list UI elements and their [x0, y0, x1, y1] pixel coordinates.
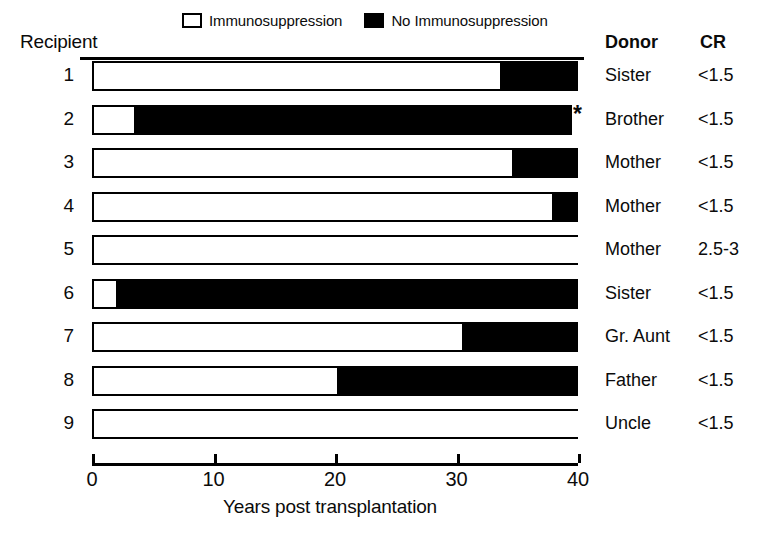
- x-axis-tick-label: 0: [86, 468, 97, 491]
- donor-label: Father: [605, 370, 657, 391]
- chart-row: 4Mother<1.5: [0, 192, 769, 222]
- stacked-bar: [92, 105, 572, 135]
- bar-segment-no-immunosuppression: [500, 63, 578, 89]
- stacked-bar: [92, 235, 578, 265]
- donor-label: Mother: [605, 152, 661, 173]
- bar-segment-immunosuppression: [94, 411, 578, 437]
- cr-label: <1.5: [698, 109, 734, 130]
- chart-plot-area: 1Sister<1.52*Brother<1.53Mother<1.54Moth…: [0, 0, 769, 534]
- cr-label: <1.5: [698, 413, 734, 434]
- bar-segment-no-immunosuppression: [337, 368, 578, 394]
- bar-segment-immunosuppression: [94, 194, 552, 220]
- bar-segment-no-immunosuppression: [512, 150, 578, 176]
- bar-segment-no-immunosuppression: [462, 324, 577, 350]
- bar-segment-immunosuppression: [94, 107, 134, 133]
- cr-label: <1.5: [698, 152, 734, 173]
- x-axis-tick: [457, 454, 460, 463]
- recipient-number: 6: [44, 282, 74, 304]
- stacked-bar: [92, 322, 578, 352]
- bar-segment-immunosuppression: [94, 237, 578, 263]
- bar-segment-immunosuppression: [94, 324, 462, 350]
- bar-segment-immunosuppression: [94, 150, 512, 176]
- stacked-bar: [92, 279, 578, 309]
- recipient-number: 1: [44, 64, 74, 86]
- x-axis-tick: [214, 454, 217, 463]
- cr-label: <1.5: [698, 370, 734, 391]
- stacked-bar: [92, 366, 578, 396]
- bar-segment-immunosuppression: [94, 63, 500, 89]
- cr-label: <1.5: [698, 65, 734, 86]
- x-axis: [92, 463, 578, 466]
- asterisk-annotation-icon: *: [573, 103, 582, 126]
- x-axis-tick-label: 20: [324, 468, 346, 491]
- chart-row: 8Father<1.5: [0, 366, 769, 396]
- chart-row: 1Sister<1.5: [0, 61, 769, 91]
- recipient-number: 7: [44, 325, 74, 347]
- bar-segment-no-immunosuppression: [116, 281, 578, 307]
- bar-segment-immunosuppression: [94, 368, 337, 394]
- chart-row: 3Mother<1.5: [0, 148, 769, 178]
- cr-label: <1.5: [698, 283, 734, 304]
- x-axis-tick-label: 30: [445, 468, 467, 491]
- stacked-bar: [92, 409, 578, 439]
- cr-label: <1.5: [698, 196, 734, 217]
- donor-label: Mother: [605, 196, 661, 217]
- stacked-bar: [92, 61, 578, 91]
- cr-label: 2.5-3: [698, 239, 739, 260]
- bar-segment-no-immunosuppression: [134, 107, 571, 133]
- x-axis-tick-label: 10: [202, 468, 224, 491]
- recipient-number: 9: [44, 412, 74, 434]
- recipient-number: 2: [44, 108, 74, 130]
- chart-row: 5Mother2.5-3: [0, 235, 769, 265]
- chart-row: 2*Brother<1.5: [0, 105, 769, 135]
- chart-row: 9Uncle<1.5: [0, 409, 769, 439]
- donor-label: Mother: [605, 239, 661, 260]
- donor-label: Uncle: [605, 413, 651, 434]
- recipient-number: 4: [44, 195, 74, 217]
- bar-segment-immunosuppression: [94, 281, 116, 307]
- chart-row: 7Gr. Aunt<1.5: [0, 322, 769, 352]
- stacked-bar: [92, 148, 578, 178]
- recipient-number: 3: [44, 151, 74, 173]
- recipient-number: 8: [44, 369, 74, 391]
- chart-figure: Recipient Immunosuppression No Immunosup…: [0, 0, 769, 534]
- x-axis-title: Years post transplantation: [0, 496, 660, 518]
- x-axis-tick: [578, 454, 581, 463]
- chart-row: 6Sister<1.5: [0, 279, 769, 309]
- bar-segment-no-immunosuppression: [552, 194, 578, 220]
- donor-label: Sister: [605, 65, 651, 86]
- donor-label: Brother: [605, 109, 664, 130]
- cr-label: <1.5: [698, 326, 734, 347]
- x-axis-tick: [92, 454, 95, 463]
- x-axis-tick-label: 40: [567, 468, 589, 491]
- x-axis-tick: [335, 454, 338, 463]
- recipient-number: 5: [44, 238, 74, 260]
- stacked-bar: [92, 192, 578, 222]
- donor-label: Sister: [605, 283, 651, 304]
- donor-label: Gr. Aunt: [605, 326, 670, 347]
